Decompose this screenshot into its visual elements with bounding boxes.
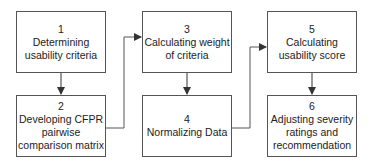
step-number: 2 bbox=[58, 100, 64, 113]
arrow-4-to-5 bbox=[232, 47, 266, 128]
step-label-line: Calculating bbox=[286, 36, 338, 49]
step-number: 6 bbox=[309, 100, 315, 113]
step-3-box: 3 Calculating weight of criteria bbox=[142, 11, 232, 73]
step-number: 4 bbox=[184, 113, 190, 126]
step-label-line: Adjusting severity bbox=[271, 113, 353, 126]
step-label-line: pairwise bbox=[42, 126, 81, 139]
step-label-line: usability score bbox=[279, 49, 346, 62]
step-label-line: of criteria bbox=[165, 49, 208, 62]
flow-diagram: 1 Determining usability criteria 2 Devel… bbox=[0, 0, 371, 167]
step-label-line: Calculating weight bbox=[144, 36, 229, 49]
step-label-line: Normalizing Data bbox=[147, 126, 228, 139]
step-5-box: 5 Calculating usability score bbox=[267, 11, 357, 73]
step-2-box: 2 Developing CFPR pairwise comparison ma… bbox=[16, 95, 106, 157]
step-number: 3 bbox=[184, 23, 190, 36]
step-label-line: ratings and bbox=[286, 126, 338, 139]
step-label-line: Determining bbox=[33, 36, 90, 49]
step-number: 1 bbox=[58, 23, 64, 36]
step-label-line: comparison matrix bbox=[18, 139, 104, 152]
arrow-2-to-3 bbox=[105, 37, 141, 128]
step-number: 5 bbox=[309, 23, 315, 36]
step-label-line: Developing CFPR bbox=[19, 113, 103, 126]
step-6-box: 6 Adjusting severity ratings and recomme… bbox=[267, 95, 357, 157]
step-label-line: recommendation bbox=[273, 139, 351, 152]
step-4-box: 4 Normalizing Data bbox=[142, 95, 232, 157]
step-1-box: 1 Determining usability criteria bbox=[16, 11, 106, 73]
step-label-line: usability criteria bbox=[25, 49, 97, 62]
